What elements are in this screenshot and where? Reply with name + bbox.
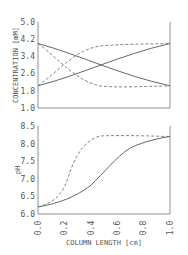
tick-label: 0.0 — [34, 221, 43, 236]
ph-plot: 8.5 8.0 7.5 7.0 6.5 6.0 pH 0.0 0.2 0.4 0… — [14, 122, 175, 247]
tick-label: 1.8 — [21, 87, 36, 96]
top-y-ticks: 5.0 4.2 3.4 2.6 1.8 1.0 — [21, 18, 36, 113]
tick-label: 8.5 — [21, 122, 36, 131]
tick-label: 1.0 — [166, 221, 175, 236]
x-ticks: 0.0 0.2 0.4 0.6 0.8 1.0 — [34, 221, 175, 236]
tick-label: 6.5 — [21, 192, 36, 201]
tick-label: 8.0 — [21, 140, 36, 149]
x-axis-label: COLUMN LENGTH [cm] — [66, 239, 142, 247]
tick-label: 4.2 — [21, 35, 36, 44]
concentration-plot: 5.0 4.2 3.4 2.6 1.8 1.0 CONCENTRATION [m… — [12, 18, 170, 113]
tick-label: 0.4 — [87, 221, 96, 236]
tick-label: 2.6 — [21, 69, 36, 78]
tick-label: 0.2 — [60, 221, 69, 236]
top-y-label: CONCENTRATION [mM] — [12, 27, 20, 103]
tick-label: 1.0 — [21, 104, 36, 113]
tick-label: 3.4 — [21, 52, 36, 61]
solid-decreasing-line — [38, 44, 170, 86]
tick-label: 6.0 — [21, 210, 36, 219]
bottom-y-label: pH — [14, 166, 22, 174]
tick-label: 0.6 — [113, 221, 122, 236]
tick-label: 7.0 — [21, 175, 36, 184]
tick-label: 5.0 — [21, 18, 36, 27]
tick-label: 0.8 — [139, 221, 148, 236]
figure: 5.0 4.2 3.4 2.6 1.8 1.0 CONCENTRATION [m… — [0, 0, 188, 255]
tick-label: 7.5 — [21, 157, 36, 166]
bottom-y-ticks: 8.5 8.0 7.5 7.0 6.5 6.0 — [21, 122, 36, 219]
